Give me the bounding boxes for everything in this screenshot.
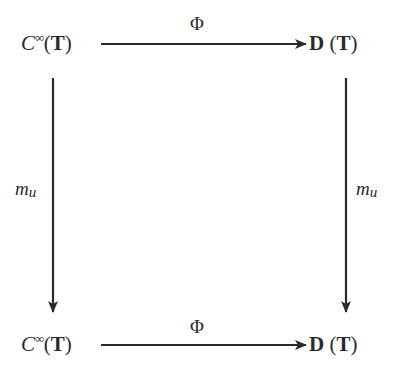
node-arg: T xyxy=(336,31,350,55)
node-top-left: C∞(T) xyxy=(21,33,72,54)
label-base: m xyxy=(356,178,370,199)
node-top-right: D (T) xyxy=(309,33,357,54)
label-subscript: u xyxy=(370,184,378,200)
node-close-paren: ) xyxy=(65,31,72,55)
node-arg: T xyxy=(51,31,65,55)
right-arrow-label: mu xyxy=(356,179,377,198)
node-close-paren: ) xyxy=(350,332,357,356)
node-open-paren: ( xyxy=(44,31,51,55)
label-base: m xyxy=(15,178,29,199)
node-base: C xyxy=(21,31,35,55)
node-base: D xyxy=(309,332,324,356)
node-close-paren: ) xyxy=(350,31,357,55)
node-bottom-right: D (T) xyxy=(309,334,357,355)
node-base: C xyxy=(21,332,35,356)
node-base: D xyxy=(309,31,324,55)
commutative-diagram: C∞(T) D (T) C∞(T) D (T) Φ Φ mu mu xyxy=(0,0,394,380)
label-subscript: u xyxy=(29,184,37,200)
node-arg: T xyxy=(336,332,350,356)
node-open-paren: ( xyxy=(44,332,51,356)
node-close-paren: ) xyxy=(65,332,72,356)
node-superscript: ∞ xyxy=(35,30,44,45)
top-arrow-label: Φ xyxy=(190,14,204,33)
left-arrow-label: mu xyxy=(15,179,36,198)
node-arg: T xyxy=(51,332,65,356)
node-open-paren: ( xyxy=(324,332,336,356)
node-superscript: ∞ xyxy=(35,331,44,346)
bottom-arrow-label: Φ xyxy=(190,317,204,336)
node-bottom-left: C∞(T) xyxy=(21,334,72,355)
node-open-paren: ( xyxy=(324,31,336,55)
